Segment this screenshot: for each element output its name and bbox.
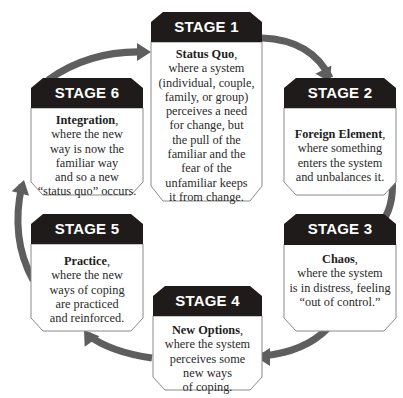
stage-3-box: STAGE 3 Chaos, where the systemis in dis…	[283, 244, 397, 332]
stage-1-title: Status Quo	[176, 47, 234, 61]
stage-5-text: where the newways of copingare practiced…	[34, 268, 140, 325]
stage-4-text: where the systemperceives somenew waysof…	[156, 337, 259, 394]
stage-3-title: Chaos	[322, 252, 355, 266]
description-line: and unbalances it.	[287, 170, 393, 184]
description-line: where something	[287, 141, 393, 155]
description-line: unfamiliar keeps	[154, 176, 259, 190]
stage-2-text: where somethingenters the systemand unba…	[287, 141, 393, 184]
description-line: enters the system	[287, 156, 393, 170]
stage-6-header: STAGE 6	[30, 84, 144, 101]
description-line: it from change.	[154, 190, 259, 204]
description-line: where the new	[34, 127, 140, 141]
description-line: familiar and the	[154, 147, 259, 161]
description-line: perceives a need	[154, 104, 259, 118]
description-line: “out of control.”	[287, 295, 393, 309]
description-line: is in distress, feeling	[287, 281, 393, 295]
stage-5-box: STAGE 5 Practice, where the newways of c…	[30, 214, 144, 332]
stage-2-box: STAGE 2 Foreign Element, where something…	[283, 78, 397, 196]
description-line: “status quo” occurs.	[34, 184, 140, 198]
description-line: where the system	[156, 337, 259, 351]
description-line: of coping.	[156, 380, 259, 394]
description-line: and reinforced.	[34, 311, 140, 325]
description-line: familiar way	[34, 156, 140, 170]
arrow-head-icon	[12, 180, 29, 196]
stage-3-description: Chaos, where the systemis in distress, f…	[287, 252, 393, 309]
stage-6-text: where the newway is now thefamiliar waya…	[34, 127, 140, 198]
arrow-shaft	[88, 335, 152, 358]
stage-2-title: Foreign Element	[295, 127, 383, 141]
arrow-stage-3-to-stage-4	[256, 328, 328, 366]
description-line: where a system	[154, 61, 259, 75]
description-line: ways of coping	[34, 283, 140, 297]
arrow-stage-1-to-stage-2	[262, 38, 331, 82]
stage-5-title: Practice	[64, 254, 107, 268]
stage-1-text: where a system(individual, couple,family…	[154, 61, 259, 204]
stage-5-header: STAGE 5	[30, 220, 144, 237]
stage-2-header: STAGE 2	[283, 84, 397, 101]
stage-3-text: where the systemis in distress, feeling“…	[287, 266, 393, 309]
description-line: the pull of the	[154, 133, 259, 147]
description-line: family, or group)	[154, 90, 259, 104]
stage-1-header: STAGE 1	[150, 18, 263, 35]
description-line: and so a new	[34, 170, 140, 184]
arrow-shaft	[48, 52, 145, 80]
arrow-stage-4-to-stage-5	[84, 330, 152, 358]
description-line: new ways	[156, 366, 259, 380]
stage-3-header-label: STAGE 3	[283, 220, 397, 237]
arrow-stage-6-to-stage-1	[48, 43, 151, 80]
stage-6-description: Integration, where the newway is now the…	[34, 113, 140, 199]
description-line: (individual, couple,	[154, 76, 259, 90]
stage-4-description: New Options, where the systemperceives s…	[156, 323, 259, 394]
description-line: way is now the	[34, 142, 140, 156]
stage-2-description: Foreign Element, where somethingenters t…	[287, 127, 393, 184]
description-line: perceives some	[156, 352, 259, 366]
stage-4-box: STAGE 4 New Options, where the systemper…	[152, 286, 263, 391]
description-line: where the new	[34, 268, 140, 282]
arrow-head-icon	[137, 43, 151, 61]
stage-1-box: STAGE 1 Status Quo, where a system(indiv…	[150, 12, 263, 202]
stage-5-description: Practice, where the newways of copingare…	[34, 254, 140, 325]
stage-1-description: Status Quo, where a system(individual, c…	[154, 47, 259, 204]
description-line: are practiced	[34, 297, 140, 311]
description-line: where the system	[287, 266, 393, 280]
stage-4-header: STAGE 4	[152, 292, 263, 309]
description-line: for change, but	[154, 118, 259, 132]
stage-6-title: Integration	[56, 113, 115, 127]
stage-4-title: New Options	[172, 323, 240, 337]
stage-3-header-band: STAGE 3	[283, 214, 397, 245]
description-line: fear of the	[154, 161, 259, 175]
stage-6-box: STAGE 6 Integration, where the newway is…	[30, 78, 144, 196]
arrow-shaft	[262, 328, 328, 356]
